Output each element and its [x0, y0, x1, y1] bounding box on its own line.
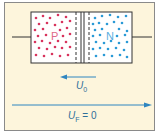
uf-label: UF = 0: [68, 110, 96, 123]
p-region-label: P: [51, 30, 58, 42]
n-region-label: N: [106, 30, 114, 42]
u0-label: U0: [76, 80, 87, 93]
u0-arrowhead-icon: [60, 75, 67, 80]
uf-arrowhead-icon: [144, 103, 152, 108]
